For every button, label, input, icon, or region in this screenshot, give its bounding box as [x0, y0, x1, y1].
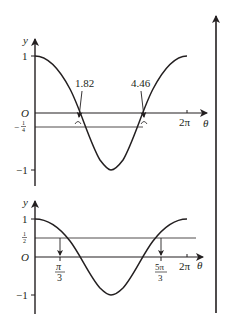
- top-tick-label-minus-quarter-den: 4: [22, 127, 25, 133]
- bottom-graph: y 1 1 2 O −1 π 3 5π 3 2π θ: [16, 196, 203, 314]
- top-x-axis-label: θ: [203, 117, 209, 129]
- solution-label-4-46: 4.46: [131, 77, 151, 89]
- top-y-axis-label: y: [22, 34, 28, 46]
- top-origin-label: O: [21, 107, 29, 119]
- bottom-tick-label-5pi-over-3-den: 3: [158, 273, 163, 283]
- bottom-tick-label-pi-over-3-den: 3: [57, 272, 62, 283]
- top-tick-label-minus1: −1: [16, 164, 28, 176]
- bottom-tick-label-minus1: −1: [16, 289, 28, 301]
- solution-mark-1-82: [75, 122, 81, 125]
- top-tick-label-minus-quarter-sign: −: [14, 122, 19, 132]
- bottom-tick-label-pi-over-3-num: π: [56, 261, 62, 272]
- figure-canvas: y 1 O − 1 4 −1 2π θ 1.82 4.46: [0, 0, 225, 322]
- bottom-tick-label-half-num: 1: [23, 231, 26, 237]
- solution-mark-4-46: [141, 122, 147, 125]
- top-tick-label-2pi: 2π: [179, 116, 191, 128]
- bottom-origin-label: O: [21, 251, 29, 263]
- bottom-tick-label-5pi-over-3-num: 5π: [155, 262, 165, 272]
- top-tick-label-1: 1: [22, 50, 28, 62]
- bottom-tick-label-2pi: 2π: [179, 260, 191, 272]
- bottom-tick-label-1: 1: [22, 213, 28, 225]
- top-graph: y 1 O − 1 4 −1 2π θ 1.82 4.46: [14, 34, 209, 186]
- bottom-x-axis-label: θ: [197, 259, 203, 271]
- bottom-y-axis-label: y: [22, 196, 28, 208]
- top-tick-label-minus-quarter-num: 1: [22, 120, 25, 126]
- bottom-tick-label-half-den: 2: [23, 238, 26, 244]
- solution-label-1-82: 1.82: [75, 77, 94, 89]
